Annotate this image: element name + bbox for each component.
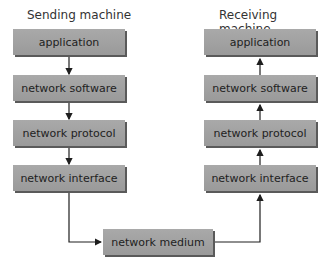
connector-arrows xyxy=(0,0,330,267)
